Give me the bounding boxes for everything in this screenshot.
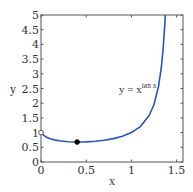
annotation-base: y = x [119, 83, 142, 95]
minimum-point [75, 140, 80, 145]
y-axis-ticks: 00.511.522.533.544.55 [22, 9, 184, 169]
y-tick-label: 3 [32, 68, 39, 81]
y-axis-label: y [10, 82, 16, 96]
x-tick-label: 0 [38, 164, 45, 177]
x-tick-label: 1 [128, 164, 135, 177]
y-tick-label: 3.5 [22, 53, 40, 66]
y-tick-label: 4.5 [22, 24, 40, 37]
y-tick-label: 0.5 [22, 141, 40, 154]
open-point [39, 130, 44, 135]
curve-annotation: y = xtan x [119, 81, 157, 95]
x-tick-label: 0.5 [77, 164, 95, 177]
y-tick-label: 4 [32, 38, 39, 51]
y-tick-label: 5 [32, 9, 39, 22]
y-tick-label: 2 [32, 97, 39, 110]
y-tick-label: 2.5 [22, 83, 40, 96]
y-tick-label: 1.5 [22, 112, 40, 125]
annotation-superscript: tan x [142, 81, 157, 90]
curve-line [41, 6, 166, 142]
x-axis-label: x [109, 174, 115, 188]
y-tick-label: 1 [32, 127, 39, 140]
x-tick-label: 1.5 [168, 164, 186, 177]
chart: 00.511.522.533.544.55 00.511.5 x y y = x… [0, 0, 193, 192]
series-curve [41, 6, 166, 142]
plot-frame [41, 15, 183, 162]
